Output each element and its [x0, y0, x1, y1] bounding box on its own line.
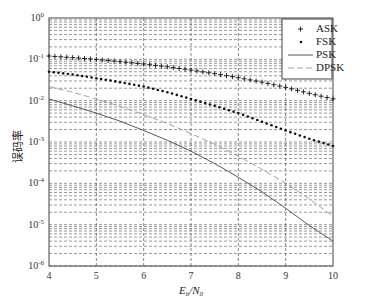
x-tick-label: 7	[189, 270, 194, 281]
y-tick-label: 10-3	[28, 135, 44, 147]
y-tick-label: 10-5	[28, 218, 44, 230]
y-tick-label: 10-6	[28, 259, 44, 271]
x-axis-label: Eb/N0	[178, 284, 204, 298]
y-axis-label: 误码率	[11, 130, 24, 163]
legend-label: FSK	[316, 35, 336, 47]
legend-label: ASK	[316, 22, 338, 34]
x-tick-label: 9	[283, 270, 288, 281]
y-tick-label: 100	[31, 11, 45, 23]
x-tick-label: 8	[236, 270, 241, 281]
data-series	[47, 54, 336, 242]
y-tick-label: 10-1	[28, 52, 44, 64]
y-tick-label: 10-2	[28, 94, 44, 106]
legend: ASKFSKPSKDPSK	[282, 19, 344, 79]
x-tick-label: 10	[328, 270, 338, 281]
y-tick-label: 10-4	[28, 176, 44, 188]
x-tick-label: 4	[47, 270, 52, 281]
x-tick-label: 5	[94, 270, 99, 281]
legend-label: PSK	[316, 48, 336, 60]
x-tick-label: 6	[141, 270, 146, 281]
ber-chart: 4567891010010-110-210-310-410-510-6 ASKF…	[0, 0, 368, 303]
legend-label: DPSK	[316, 61, 344, 73]
